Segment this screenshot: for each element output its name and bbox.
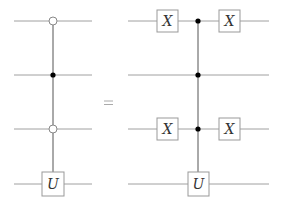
right-circuit: X X X X U	[128, 10, 269, 196]
x-gate: X	[157, 10, 178, 32]
u-gate-label: U	[193, 176, 206, 192]
u-gate-label: U	[47, 176, 60, 192]
circuit-diagram: U X X X X	[0, 0, 282, 206]
open-control-icon	[49, 17, 57, 25]
x-gate: X	[157, 118, 178, 140]
closed-control-icon	[195, 72, 200, 77]
x-gate: X	[219, 118, 240, 140]
closed-control-icon	[195, 18, 200, 23]
x-gate-label: X	[224, 13, 236, 29]
x-gate-label: X	[162, 121, 174, 137]
u-gate: U	[42, 172, 64, 196]
open-control-icon	[49, 125, 57, 133]
closed-control-icon	[50, 72, 55, 77]
equals-sign	[104, 101, 113, 105]
x-gate: X	[219, 10, 240, 32]
u-gate: U	[188, 172, 209, 196]
x-gate-label: X	[224, 121, 236, 137]
left-circuit: U	[14, 17, 92, 196]
x-gate-label: X	[162, 13, 174, 29]
closed-control-icon	[195, 126, 200, 131]
